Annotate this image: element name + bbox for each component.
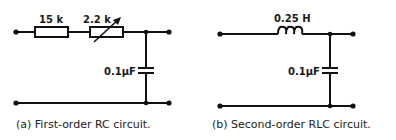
terminal-dot: [350, 103, 355, 108]
inductor-label: 0.25 H: [274, 13, 311, 24]
terminal-dot: [217, 31, 222, 36]
terminal-dot: [13, 100, 18, 105]
caption-b: (b) Second-order RLC circuit.: [212, 118, 371, 131]
terminal-dot: [350, 31, 355, 36]
junction-dot: [144, 101, 149, 106]
caption-a: (a) First-order RC circuit.: [16, 118, 151, 131]
capacitor-label: 0.1μF: [288, 66, 320, 77]
capacitor-label: 0.1μF: [104, 66, 136, 77]
resistor-label: 15 k: [39, 14, 63, 25]
variable-resistor-label: 2.2 k: [83, 14, 111, 25]
rlc-circuit: 0.25 H 0.1μF (b) Second-order RLC circui…: [212, 13, 371, 131]
terminal-dot: [166, 29, 171, 34]
junction-dot: [328, 32, 333, 37]
terminal-dot: [13, 29, 18, 34]
junction-dot: [144, 30, 149, 35]
variable-resistor-2-2k: [90, 27, 123, 37]
circuit-diagrams: 15 k 2.2 k 0.1μF (a) First-order RC circ…: [0, 0, 396, 140]
resistor-15k: [35, 27, 68, 37]
junction-dot: [328, 104, 333, 109]
rc-circuit: 15 k 2.2 k 0.1μF (a) First-order RC circ…: [13, 14, 171, 131]
terminal-dot: [166, 100, 171, 105]
terminal-dot: [217, 103, 222, 108]
inductor-coil: [278, 27, 302, 34]
